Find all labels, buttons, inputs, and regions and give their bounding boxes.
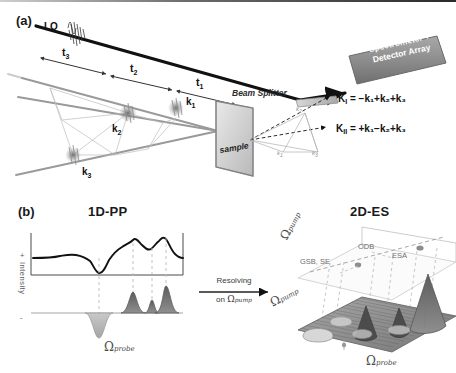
lo-pulse-wavepacket (68, 22, 85, 46)
resolving-caption-top: Resolving (199, 277, 269, 285)
intensity-minus: - (20, 314, 23, 322)
beam-splitter-plate (296, 96, 338, 107)
pp-guide-lines (99, 238, 166, 333)
lo-label: LO (44, 22, 58, 32)
panel-b-right-title: 2D-ES (350, 205, 389, 218)
es-peak-odb-dip (352, 330, 372, 339)
feature-label-odb: ODB (358, 243, 374, 251)
component-positive-1 (121, 292, 145, 313)
resolving-caption-bottom: on Ωpump (199, 295, 269, 304)
component-negative (85, 313, 113, 338)
inset-wavevector-k3: k3 (312, 150, 318, 158)
intensity-plus: + (20, 252, 25, 260)
pp-spectrum-trace (33, 238, 183, 273)
panel-b-left-title: 1D-PP (88, 205, 127, 218)
lo-beam-path (36, 26, 345, 100)
feature-label-esa: ESA (392, 252, 407, 260)
wavevector-k3: k3 (82, 167, 91, 179)
beam-splitter-label: Beam Splitter (232, 89, 287, 98)
inset-wavevector-k1: k1 (277, 150, 283, 158)
x-axis-omega-probe-left: Ωprobe (104, 341, 135, 353)
component-positive-3 (155, 286, 179, 313)
x-axis-omega-probe-right: Ωprobe (366, 355, 397, 367)
feature-label-gsb-se: GSB, SE (300, 258, 330, 266)
intensity-label: Intensity (19, 262, 27, 294)
wavevector-k2: k2 (112, 124, 121, 136)
boxcars-pyramid-inset (250, 113, 318, 152)
signal-equation-KI: KI = −k₁+k₂+k₃ (338, 94, 406, 105)
signal-equation-KII: KII = +k₁−k₂+k₃ (336, 124, 406, 135)
es-peak-esa-dip (388, 326, 410, 335)
time-delay-arrows (41, 58, 236, 105)
wavevector-k1: k1 (186, 97, 195, 109)
es-peak-gsb (330, 317, 352, 327)
figure-root: (a) LO t3 t2 t1 k1 k2 k3 k2 k1 k3 Beam S… (0, 0, 456, 373)
component-positive-2 (145, 300, 159, 313)
panel-a-tag: (a) (16, 14, 32, 27)
time-delay-t3: t3 (62, 47, 69, 60)
inset-wavevector-k2: k2 (296, 106, 302, 114)
panel-b-tag: (b) (18, 205, 35, 218)
time-delay-t2: t2 (130, 63, 137, 76)
time-delay-t1: t1 (196, 77, 203, 90)
es-peak-gsb-dip (303, 329, 333, 343)
sample-plate (216, 101, 253, 176)
